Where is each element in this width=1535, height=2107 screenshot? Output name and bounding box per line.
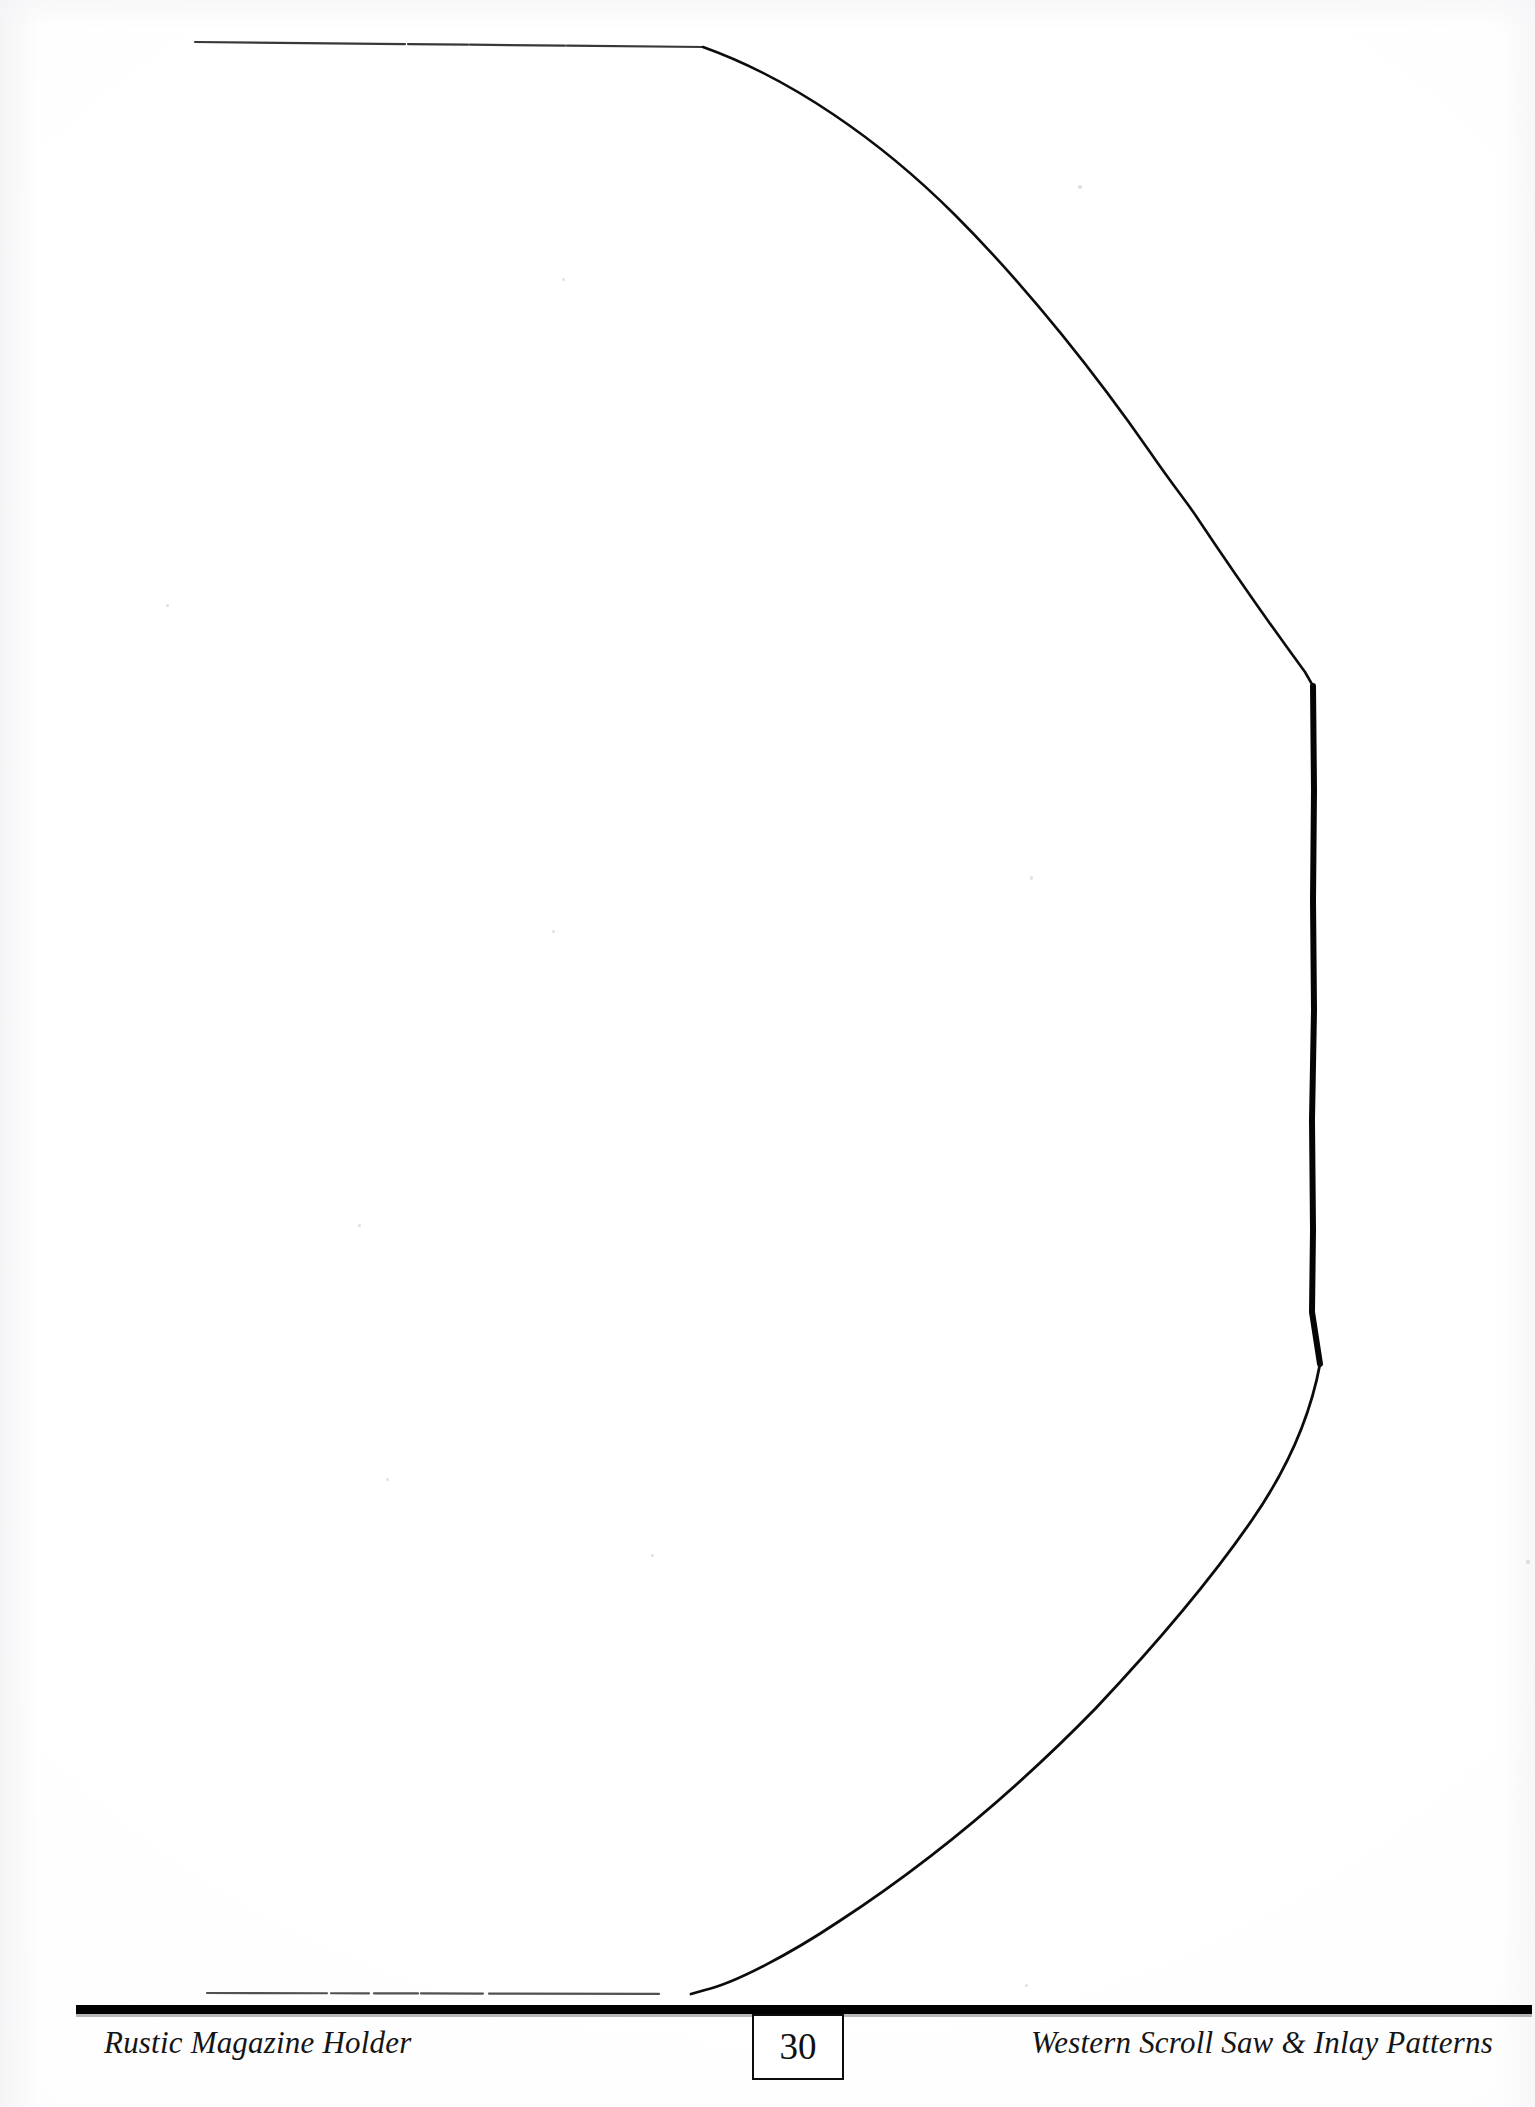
pattern-top-edge [195, 42, 703, 47]
scanned-page: Rustic Magazine Holder 30 Western Scroll… [0, 0, 1535, 2107]
pattern-main-curve [703, 47, 1313, 686]
pattern-spine-line [1312, 686, 1320, 1364]
footer-book-title: Western Scroll Saw & Inlay Patterns [1031, 2025, 1493, 2061]
page-number: 30 [780, 2028, 817, 2067]
footer-divider-rule [76, 2005, 1532, 2014]
footer-project-title: Rustic Magazine Holder [104, 2025, 411, 2061]
page-footer: Rustic Magazine Holder 30 Western Scroll… [0, 1991, 1535, 2107]
page-number-box: 30 [752, 2014, 844, 2080]
pattern-lower-curve [691, 1364, 1320, 1994]
scroll-saw-pattern-outline [0, 0, 1535, 2107]
